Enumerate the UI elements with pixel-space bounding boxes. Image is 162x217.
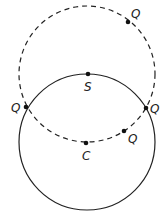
point-Q-top: Q	[126, 7, 141, 24]
point-S: S	[84, 72, 92, 94]
point-C: C	[82, 141, 91, 163]
label-C: C	[82, 149, 91, 163]
label-Q-inner: Q	[128, 132, 137, 146]
label-Q-right: Q	[150, 102, 159, 116]
label-S: S	[84, 80, 92, 94]
point-Q-right: Q	[144, 102, 160, 116]
label-Q-top: Q	[131, 7, 140, 21]
point-Q-inner: Q	[122, 129, 138, 146]
geometry-diagram: S C Q Q Q Q	[0, 0, 162, 217]
label-Q-left: Q	[11, 101, 20, 115]
